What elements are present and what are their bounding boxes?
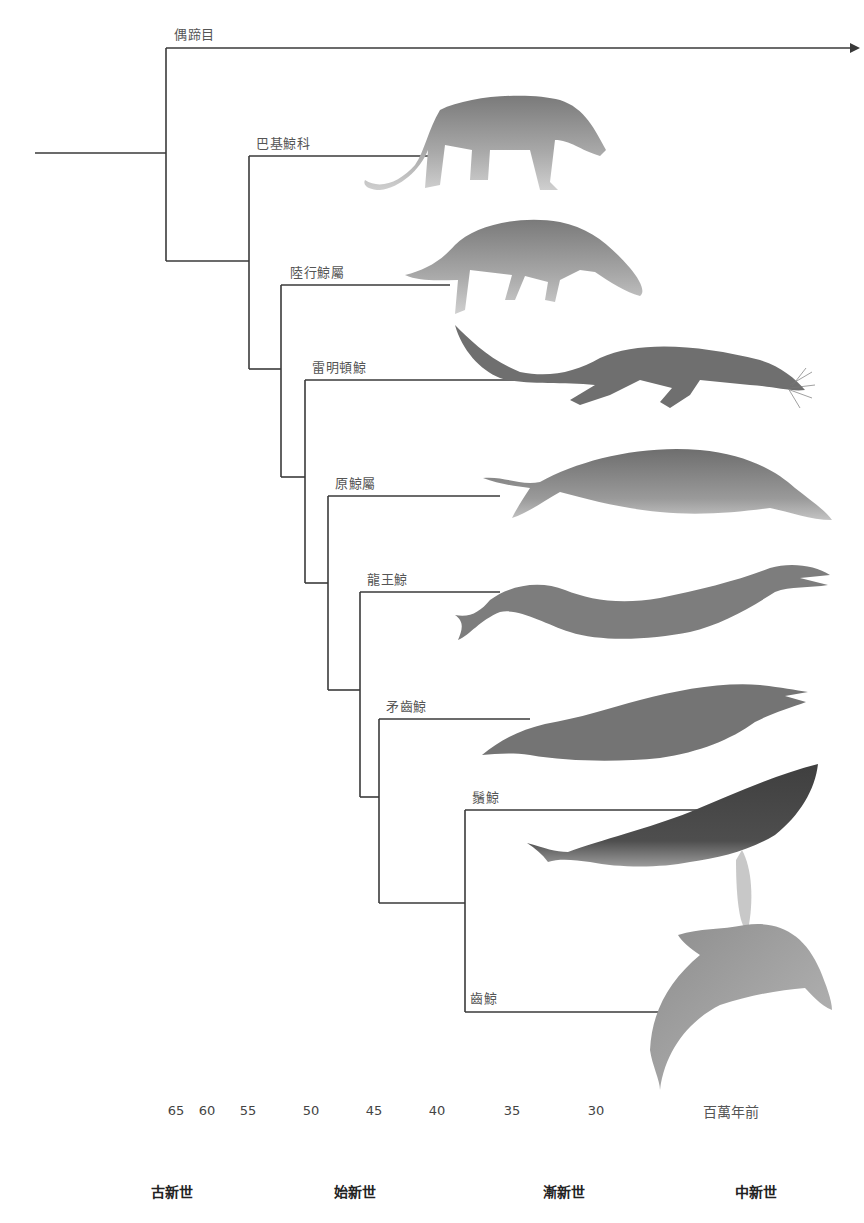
arrow-head-icon [850, 43, 860, 53]
tree-branches [0, 0, 864, 1223]
basilosaurus-illustration [455, 565, 830, 640]
tick-65: 65 [168, 1103, 185, 1118]
tick-40: 40 [429, 1103, 446, 1118]
label-artiodactyla: 偶蹄目 [174, 24, 215, 43]
label-odontoceti: 齒鯨 [470, 988, 497, 1007]
label-dorudon: 矛齒鯨 [386, 696, 427, 715]
tick-45: 45 [366, 1103, 383, 1118]
label-pakicetidae: 巴基鯨科 [256, 133, 310, 152]
rodhocetus-illustration [455, 325, 815, 408]
tick-60: 60 [199, 1103, 216, 1118]
label-rodhocetus: 雷明頓鯨 [312, 357, 366, 376]
tick-35: 35 [504, 1103, 521, 1118]
mysticeti-illustration [527, 764, 818, 930]
tick-55: 55 [240, 1103, 257, 1118]
ambulocetus-illustration [405, 220, 642, 314]
label-ambulocetus: 陸行鯨屬 [290, 262, 344, 281]
label-mysticeti: 鬚鯨 [472, 787, 499, 806]
dorudon-illustration [482, 684, 808, 760]
tick-30: 30 [588, 1103, 605, 1118]
tick-50: 50 [303, 1103, 320, 1118]
protocetus-illustration [483, 449, 832, 520]
whale-cladogram: 偶蹄目 巴基鯨科 陸行鯨屬 雷明頓鯨 原鯨屬 龍王鯨 矛齒鯨 鬚鯨 齒鯨 65 … [0, 0, 864, 1223]
epoch-oligocene: 漸新世 [543, 1181, 585, 1201]
epoch-eocene: 始新世 [334, 1181, 376, 1201]
odontoceti-illustration [650, 924, 832, 1090]
label-protocetus: 原鯨屬 [335, 473, 376, 492]
epoch-paleocene: 古新世 [151, 1181, 193, 1201]
epoch-miocene: 中新世 [735, 1181, 777, 1201]
label-basilosaurus: 龍王鯨 [367, 569, 408, 588]
pakicetus-illustration [364, 96, 606, 190]
axis-unit-label: 百萬年前 [703, 1101, 759, 1121]
